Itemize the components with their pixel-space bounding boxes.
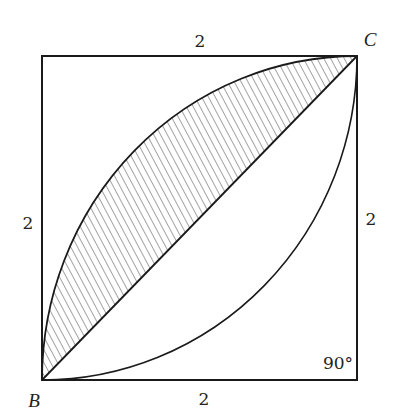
square-arcs-diagram: 2 2 2 2 90° C B <box>0 0 406 419</box>
bottom-side-label: 2 <box>199 389 210 409</box>
vertex-b-label: B <box>28 390 40 411</box>
vertex-c-label: C <box>364 29 377 50</box>
right-side-label: 2 <box>366 209 377 229</box>
left-side-label: 2 <box>23 213 34 233</box>
top-side-label: 2 <box>195 31 206 51</box>
angle-label: 90° <box>323 353 353 373</box>
